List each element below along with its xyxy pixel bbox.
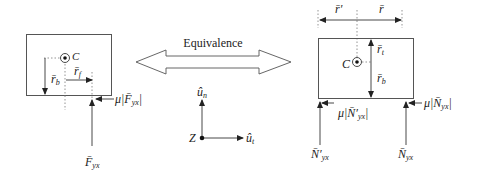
u-t-label: ût (246, 131, 255, 146)
right-panel: r̄′ r̄ C r̄t r̄b μ|N̄′yx| μ|N̄yx| N̄′yx … (310, 2, 452, 162)
right-body-box (319, 39, 414, 99)
origin-label: Z (189, 131, 196, 145)
right-center-label: C (342, 57, 351, 71)
left-r-b-label: r̄b (51, 72, 60, 87)
equivalence-arrow: Equivalence (136, 36, 291, 74)
left-r-f-label: r̄f (74, 64, 83, 79)
left-body-box (27, 35, 112, 96)
r-prime-label: r̄′ (335, 2, 343, 16)
origin-point-icon (200, 136, 205, 141)
left-force-label: F̄yx (84, 155, 100, 170)
right-right-friction-label: μ|N̄yx| (423, 96, 452, 111)
left-friction-label: μ|F̄yx| (114, 92, 142, 107)
u-n-label: ûn (197, 85, 207, 100)
equivalence-label: Equivalence (183, 36, 242, 50)
coordinate-axes: Z ûn ût (189, 85, 255, 146)
right-center-of-mass-icon (353, 58, 362, 67)
r-label: r̄ (379, 2, 384, 16)
equivalence-diagram: C r̄b r̄f μ|F̄yx| F̄yx Equivalence Z ûn … (0, 0, 484, 178)
right-left-friction-label: μ|N̄′yx| (337, 106, 368, 121)
right-normal-right-label: N̄yx (397, 147, 414, 162)
left-center-of-mass-icon (61, 54, 70, 63)
double-headed-arrow-icon (136, 50, 291, 74)
r-t-label: r̄t (377, 42, 385, 57)
left-panel: C r̄b r̄f μ|F̄yx| F̄yx (27, 35, 143, 171)
right-normal-left-label: N̄′yx (310, 147, 329, 162)
left-center-label: C (72, 50, 80, 62)
right-r-b-label: r̄b (377, 71, 386, 86)
